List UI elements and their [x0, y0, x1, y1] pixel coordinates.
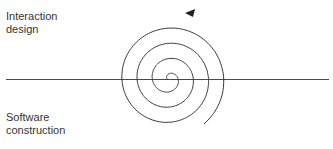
spiral-path — [122, 28, 224, 124]
spiral-diagram — [0, 0, 333, 149]
arrow-head-icon — [185, 9, 195, 17]
